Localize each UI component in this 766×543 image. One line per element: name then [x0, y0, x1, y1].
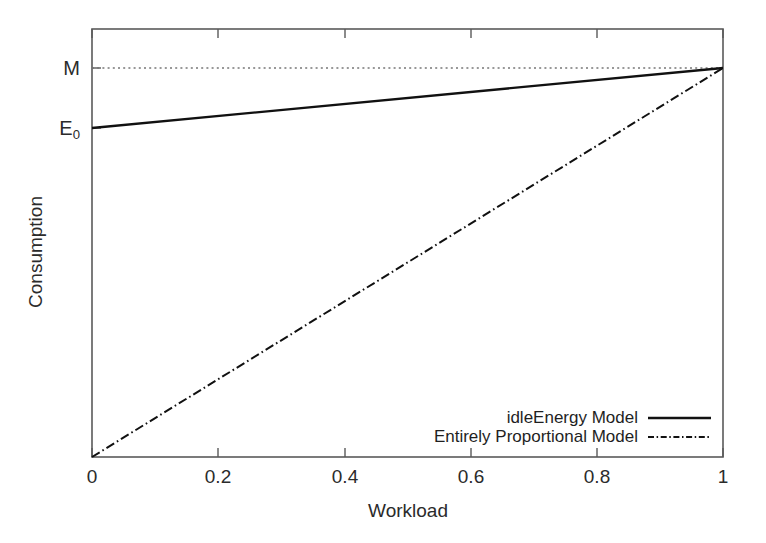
y-axis-title: Consumption — [25, 196, 47, 308]
x-tick-label-3: 0.6 — [458, 466, 484, 488]
x-axis-ticks-top — [92, 29, 723, 38]
y-tick-label-idle-energy: E0 — [59, 117, 80, 140]
x-tick-label-5: 1 — [718, 466, 729, 488]
series-line-entirely-proportional-model — [92, 68, 723, 457]
legend-label-idleenergy-model: idleEnergy Model — [507, 408, 638, 428]
x-tick-label-0: 0 — [87, 466, 98, 488]
series-line-idleenergy-model — [92, 68, 723, 128]
plot-canvas — [0, 0, 766, 543]
y-tick-label-idle-energy-subscript: 0 — [73, 126, 80, 141]
y-tick-label-idle-energy-text: E — [59, 117, 72, 139]
x-axis-ticks-bottom — [92, 448, 723, 457]
x-tick-label-1: 0.2 — [205, 466, 231, 488]
plot-frame — [92, 29, 723, 457]
energy-consumption-chart: 0 0.2 0.4 0.6 0.8 1 M E0 Workload Consum… — [0, 0, 766, 543]
x-tick-label-2: 0.4 — [332, 466, 358, 488]
legend-label-entirely-proportional-model: Entirely Proportional Model — [434, 427, 638, 447]
x-tick-label-4: 0.8 — [584, 466, 610, 488]
y-axis-ticks — [92, 68, 101, 128]
x-axis-title: Workload — [368, 500, 448, 522]
y-tick-label-max-text: M — [63, 57, 80, 79]
y-tick-label-max: M — [63, 57, 80, 80]
